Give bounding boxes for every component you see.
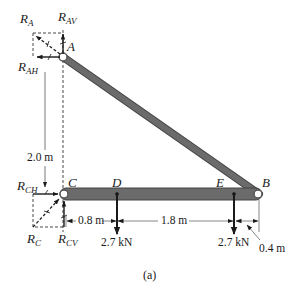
reaction-label-rch-sub: CH (25, 185, 38, 195)
reaction-label-rcv-sub: CV (66, 238, 78, 248)
reaction-label-ra-main: R (20, 11, 28, 26)
figure-caption: (a) (143, 269, 156, 281)
dim-label-height: 2.0 m (27, 152, 53, 164)
point-label-d: D (112, 176, 121, 189)
pin-b (254, 190, 262, 198)
reaction-label-rc-main: R (27, 231, 35, 246)
reaction-label-rch: RCH (17, 179, 37, 195)
reaction-label-rah-sub: AH (26, 66, 38, 76)
pin-c (60, 190, 68, 198)
load-label-d: 2.7 kN (101, 237, 132, 249)
member-cb (60, 188, 262, 200)
reaction-label-rav-sub: AV (66, 16, 77, 26)
reaction-label-rcv: RCV (58, 232, 77, 248)
point-label-c: C (68, 176, 77, 189)
point-label-e: E (216, 176, 224, 189)
reaction-label-rch-main: R (17, 178, 25, 193)
reaction-label-ra-sub: A (28, 18, 34, 28)
reaction-label-rc: RC (27, 232, 41, 248)
reaction-label-rav: RAV (58, 10, 77, 26)
dim-label-cd: 0.8 m (78, 215, 104, 227)
reaction-label-rc-sub: C (35, 238, 41, 248)
reaction-label-rav-main: R (58, 9, 66, 24)
reaction-label-rcv-main: R (58, 231, 66, 246)
member-ab-fill (63, 57, 259, 194)
reaction-label-ra: RA (20, 12, 33, 28)
truss-free-body-diagram: A C D E B RA RAV RAH RCH RC RCV 2.0 m 0.… (0, 0, 304, 293)
point-label-a: A (67, 40, 75, 53)
reaction-arrow-rc (33, 199, 59, 227)
reaction-label-rah-main: R (18, 59, 26, 74)
pin-a (59, 53, 67, 61)
point-label-b: B (262, 176, 270, 189)
dim-label-eb: 0.4 m (259, 243, 285, 255)
reaction-label-rah: RAH (18, 60, 38, 76)
dim-label-de: 1.8 m (161, 215, 187, 227)
load-label-e: 2.7 kN (218, 237, 249, 249)
